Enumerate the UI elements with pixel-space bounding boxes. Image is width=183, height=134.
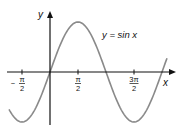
x-tick-denominator: 2	[76, 84, 80, 93]
x-tick-sign: −	[11, 79, 16, 88]
x-ticks: π2−π23π2	[11, 70, 139, 94]
x-axis-arrow-icon	[169, 69, 176, 75]
curve-annotation: y = sin x	[101, 29, 138, 40]
x-axis-label: x	[162, 77, 169, 88]
y-axis-label: y	[37, 9, 44, 20]
x-tick-numerator: π	[75, 75, 80, 84]
x-tick-denominator: 2	[132, 84, 136, 93]
x-tick-numerator: 3π	[129, 75, 138, 84]
x-tick-denominator: 2	[20, 84, 24, 93]
y-axis-arrow-icon	[47, 11, 53, 18]
sine-chart: π2−π23π2 y x y = sin x	[0, 0, 183, 134]
x-tick-numerator: π	[19, 75, 24, 84]
